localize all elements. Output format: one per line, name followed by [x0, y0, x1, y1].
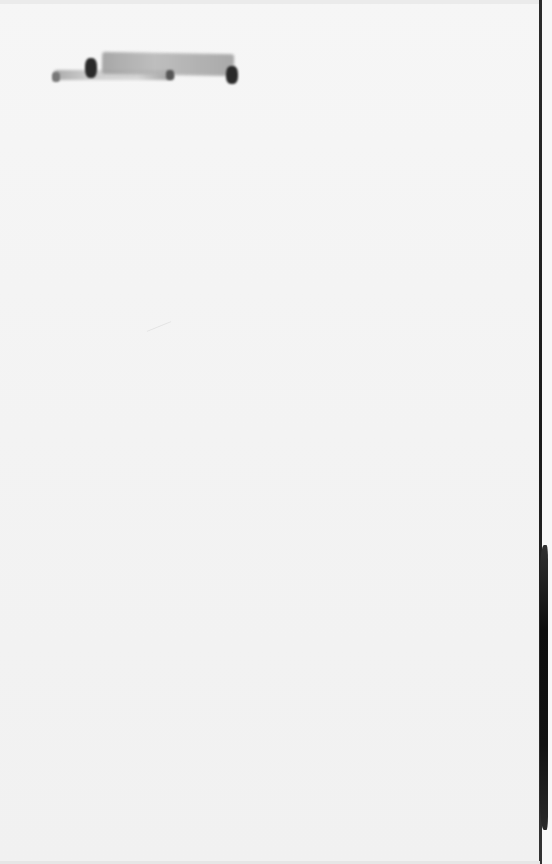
smudge-mark	[166, 70, 174, 80]
smudge-mark	[85, 58, 97, 78]
page-top-edge	[0, 0, 540, 4]
smudge-mark	[52, 72, 60, 82]
scanned-page	[0, 0, 552, 864]
smudge-mark	[226, 66, 238, 84]
redaction-smudge	[50, 48, 250, 88]
faint-scan-artifact	[147, 321, 171, 332]
binding-shadow	[540, 545, 548, 830]
